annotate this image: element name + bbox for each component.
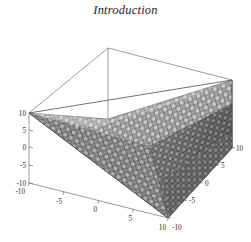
surface-plot-svg: 10 5 0 -5 -10 -10 -5 0 5 10 -10 -5 0 5 1… — [0, 28, 251, 242]
ztick-m10 — [29, 183, 33, 184]
ztick-0 — [29, 147, 33, 148]
figure-container: 10 5 0 -5 -10 -10 -5 0 5 10 -10 -5 0 5 1… — [0, 28, 251, 242]
x-tick-label-m5: -5 — [56, 198, 62, 206]
z-axis-labels: 10 5 0 -5 -10 — [16, 110, 26, 188]
z-tick-label-10: 10 — [19, 110, 27, 118]
y-tick-label-10: 10 — [236, 145, 244, 153]
x-tick-label-10: 10 — [159, 224, 167, 232]
z-tick-label-5: 5 — [22, 127, 26, 135]
box-edge-back-right — [108, 48, 232, 80]
box-edge-back-left — [29, 48, 108, 113]
y-tick-label-m5: -5 — [189, 197, 195, 205]
z-tick-label-0: 0 — [22, 144, 26, 152]
page-root: Introduction — [0, 0, 251, 242]
ztick-5 — [29, 130, 33, 131]
y-tick-label-m10: -10 — [172, 224, 182, 232]
page-title: Introduction — [0, 3, 251, 18]
y-tick-label-5: 5 — [221, 162, 225, 170]
z-tick-label-m10: -10 — [16, 180, 26, 188]
x-tick-label-m10: -10 — [15, 188, 25, 196]
z-tick-label-m5: -5 — [20, 162, 26, 170]
ztick-m5 — [29, 165, 33, 166]
x-tick-label-0: 0 — [93, 206, 97, 214]
y-tick-label-0: 0 — [205, 180, 209, 188]
x-tick-label-5: 5 — [128, 215, 132, 223]
